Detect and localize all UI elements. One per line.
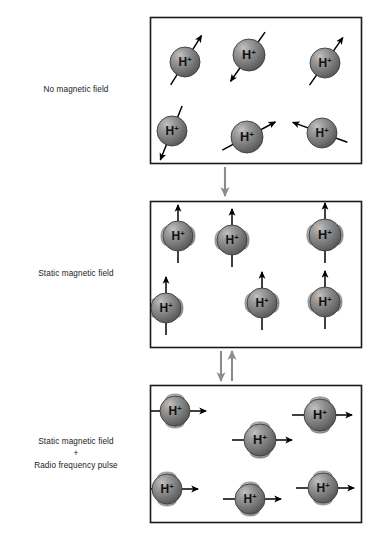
proton-charge-superscript: + — [180, 229, 185, 238]
proton-charge-superscript: + — [322, 408, 327, 417]
proton-charge-superscript: + — [327, 56, 332, 65]
proton-charge-superscript: + — [252, 492, 257, 501]
nmr-spin-diagram: H+H+H+H+H+H+H+H+H+H+H+H+H+H+H+H+H+H+ No … — [0, 0, 379, 540]
proton-charge-superscript: + — [251, 48, 256, 57]
panel-panel-no-field: H+H+H+H+H+H+ — [151, 18, 362, 164]
proton-charge-superscript: + — [249, 130, 254, 139]
proton-charge-superscript: + — [187, 55, 192, 64]
proton-particle: H+ — [307, 118, 337, 148]
panels-layer: H+H+H+H+H+H+H+H+H+H+H+H+H+H+H+H+H+H+ — [140, 18, 362, 523]
proton-charge-superscript: + — [325, 481, 330, 490]
panel-label-line: Static magnetic field — [8, 268, 144, 280]
proton-charge-superscript: + — [234, 233, 239, 242]
proton-charge-superscript: + — [174, 124, 179, 133]
proton-charge-superscript: + — [327, 295, 332, 304]
proton-charge-superscript: + — [169, 482, 174, 491]
proton-charge-superscript: + — [327, 228, 332, 237]
panel-label-static-field-rf-pulse: Static magnetic field+Radio frequency pu… — [8, 436, 144, 472]
panel-label-line: + — [8, 448, 144, 460]
panel-panel-static-field: H+H+H+H+H+H+ — [149, 202, 362, 348]
panel-label-line: No magnetic field — [8, 84, 144, 96]
proton-particle: H+ — [170, 47, 200, 77]
panel-label-static-field: Static magnetic field — [8, 268, 144, 280]
panel-label-no-field: No magnetic field — [8, 84, 144, 96]
connector-connector-bottom — [221, 351, 232, 381]
proton-charge-superscript: + — [177, 404, 182, 413]
proton-particle: H+ — [157, 116, 187, 146]
proton-charge-superscript: + — [168, 301, 173, 310]
proton-charge-superscript: + — [262, 433, 267, 442]
proton-particle: H+ — [231, 121, 263, 153]
panel-label-line: Static magnetic field — [8, 436, 144, 448]
proton-charge-superscript: + — [324, 126, 329, 135]
proton-charge-superscript: + — [264, 296, 269, 305]
panel-label-line: Radio frequency pulse — [8, 460, 144, 472]
panel-panel-static-field-rf-pulse: H+H+H+H+H+H+ — [140, 386, 362, 523]
proton-particle: H+ — [233, 39, 265, 71]
proton-particle: H+ — [310, 48, 340, 78]
